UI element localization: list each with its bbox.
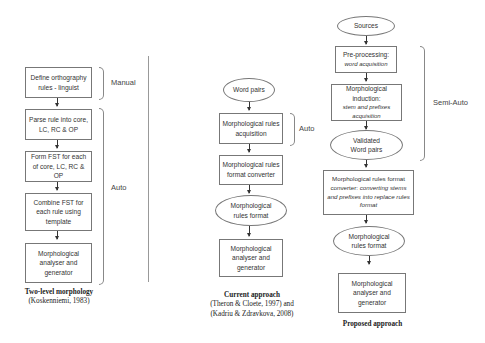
caption-current: Current approach (Theron & Cloete, 1997)… bbox=[196, 291, 308, 319]
step-form-fst: Form FST for each of core, LC, RC & OP bbox=[25, 151, 92, 182]
step-analyser: Morphological analyser and generator bbox=[219, 239, 283, 277]
caption-title: Proposed approach bbox=[330, 320, 415, 329]
arrow-icon bbox=[249, 185, 250, 193]
caption-ref: (Theron & Cloete, 1997) and bbox=[210, 300, 294, 308]
step-morph-induction: Morphological induction: stem and prefix… bbox=[331, 84, 402, 121]
step-combine-fst: Combine FST for each rule using template bbox=[25, 193, 92, 231]
step-label: Form FST for each of core, LC, RC & OP bbox=[28, 152, 89, 181]
arrow-icon bbox=[369, 256, 370, 264]
caption-ref: (Kadriu & Zdravkova, 2008) bbox=[210, 310, 293, 318]
step-label: Morphological rules format converter: co… bbox=[326, 175, 411, 211]
label-semi-auto: Semi-Auto bbox=[433, 98, 468, 107]
step-label: Morphological induction: bbox=[334, 84, 399, 103]
brace-auto bbox=[99, 108, 104, 285]
label-manual: Manual bbox=[111, 78, 136, 87]
step-label: Morphological analyser and generator bbox=[341, 279, 403, 308]
arrow-icon bbox=[249, 144, 250, 152]
arrow-icon bbox=[57, 140, 58, 148]
step-format-converter: Morphological rules format converter bbox=[219, 155, 283, 185]
output-rules-format: Morphological rules format bbox=[333, 226, 405, 256]
arrow-icon bbox=[366, 160, 367, 167]
arrow-icon bbox=[366, 73, 367, 81]
step-label: Morphological rules acquisition bbox=[222, 119, 280, 138]
brace-semi-auto bbox=[420, 46, 425, 161]
oval-label: Word pairs bbox=[233, 85, 265, 94]
caption-title: Two-level morphology bbox=[8, 288, 110, 297]
step-label: Pre-processing: bbox=[343, 50, 389, 60]
arrow-icon bbox=[366, 121, 367, 129]
step-label: Morphological rules format converter bbox=[222, 160, 280, 179]
arrow-icon bbox=[249, 102, 250, 110]
brace-manual bbox=[99, 67, 104, 100]
caption-title: Current approach bbox=[196, 291, 308, 300]
step-label: Define orthography rules - linguist bbox=[28, 73, 89, 92]
step-label: Combine FST for each rule using template bbox=[28, 198, 89, 227]
caption-proposed: Proposed approach bbox=[330, 320, 415, 329]
step-define-rules: Define orthography rules - linguist bbox=[25, 67, 92, 98]
input-sources: Sources bbox=[337, 16, 395, 36]
step-label: Parse rule into core, LC, RC & OP bbox=[28, 115, 89, 134]
caption-ref: (Koskenniemi, 1983) bbox=[28, 297, 89, 305]
arrow-icon bbox=[57, 182, 58, 190]
label-auto: Auto bbox=[111, 183, 126, 192]
step-label: Morphological analyser and generator bbox=[28, 249, 89, 278]
output-rules-format: Morphological rules format bbox=[215, 195, 287, 226]
arrow-icon bbox=[57, 231, 58, 239]
step-sublabel: stem and prefixes acquisition bbox=[334, 103, 399, 120]
arrow-icon bbox=[366, 215, 367, 223]
arrow-icon bbox=[57, 98, 58, 106]
step-label: Morphological analyser and generator bbox=[222, 244, 280, 273]
step-sublabel: word acquisition bbox=[344, 60, 387, 69]
oval-label: Morphological rules format bbox=[334, 232, 404, 250]
oval-label: Validated Word pairs bbox=[331, 136, 402, 154]
validated-word-pairs: Validated Word pairs bbox=[330, 130, 403, 160]
oval-label: Sources bbox=[354, 21, 378, 30]
diagram-canvas: Define orthography rules - linguist Pars… bbox=[0, 0, 485, 343]
caption-two-level: Two-level morphology (Koskenniemi, 1983) bbox=[8, 288, 110, 307]
step-preprocessing: Pre-processing: word acquisition bbox=[335, 46, 397, 73]
step-rules-acquisition: Morphological rules acquisition bbox=[219, 113, 283, 144]
step-parse-rule: Parse rule into core, LC, RC & OP bbox=[25, 109, 92, 140]
input-word-pairs: Word pairs bbox=[223, 78, 275, 102]
step-analyser: Morphological analyser and generator bbox=[338, 273, 406, 313]
arrow-icon bbox=[249, 226, 250, 236]
label-auto: Auto bbox=[299, 124, 314, 133]
step-analyser: Morphological analyser and generator bbox=[25, 243, 92, 283]
arrow-icon bbox=[366, 36, 367, 44]
brace-auto bbox=[290, 113, 295, 146]
step-rules-converter: Morphological rules format converter: co… bbox=[323, 170, 414, 215]
column-divider bbox=[148, 56, 149, 282]
oval-label: Morphological rules format bbox=[216, 201, 286, 219]
